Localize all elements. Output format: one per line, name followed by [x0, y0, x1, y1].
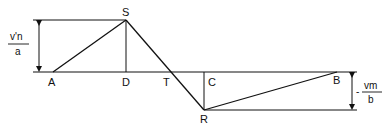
label-B: B [333, 74, 340, 86]
label-R: R [200, 113, 208, 125]
label-D: D [122, 76, 130, 88]
left-fraction-numerator: v'n [10, 31, 22, 42]
right-fraction-numerator: vm [364, 80, 377, 91]
left-fraction-denominator: a [15, 46, 21, 57]
line-RB [204, 72, 337, 110]
label-C: C [208, 76, 216, 88]
line-SR [126, 20, 204, 110]
diagram-svg: S A D T C R B v'n a - vm b [0, 0, 388, 128]
shear-diagram: S A D T C R B v'n a - vm b [0, 0, 388, 128]
label-S: S [122, 6, 129, 18]
right-fraction-sign: - [356, 86, 359, 97]
label-T: T [163, 76, 170, 88]
line-AS [53, 20, 126, 72]
label-A: A [48, 76, 56, 88]
right-fraction-denominator: b [368, 94, 374, 105]
